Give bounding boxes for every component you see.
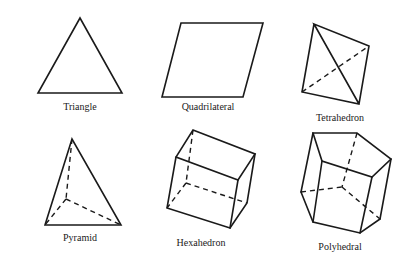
quadrilateral-shape [162,23,263,97]
polyhedral-shape [301,133,391,233]
tetrahedron-shape [302,24,369,104]
hexahedron-label: Hexahedron [177,237,226,248]
pyramid-label: Pyramid [63,232,97,243]
quadrilateral-label: Quadrilateral [182,101,235,112]
hexahedron-shape [167,130,255,228]
tetrahedron-label: Tetrahedron [316,112,364,123]
pyramid-shape [45,139,121,225]
triangle-shape [38,18,122,93]
polyhedral-label: Polyhedral [318,241,362,252]
shapes-diagram: Triangle Quadrilateral Tetrahedron Pyram… [0,0,408,261]
triangle-label: Triangle [63,101,97,112]
